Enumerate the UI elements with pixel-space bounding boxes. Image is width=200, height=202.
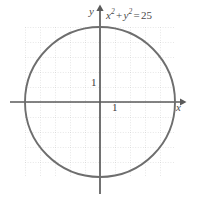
equation-exponent-y: 2 bbox=[129, 7, 133, 16]
x-axis-label: x bbox=[176, 102, 181, 113]
equation-equals: = bbox=[133, 9, 141, 21]
equation-annotation: x2+y2=25 bbox=[106, 8, 152, 21]
graph-canvas bbox=[0, 0, 200, 202]
equation-constant: 25 bbox=[141, 9, 152, 21]
x-axis-tick-label-1: 1 bbox=[112, 102, 118, 113]
graph-figure: x2+y2=25 y x 1 1 bbox=[0, 0, 200, 202]
y-axis-tick-label-1: 1 bbox=[91, 77, 97, 88]
y-axis-label: y bbox=[89, 6, 94, 17]
